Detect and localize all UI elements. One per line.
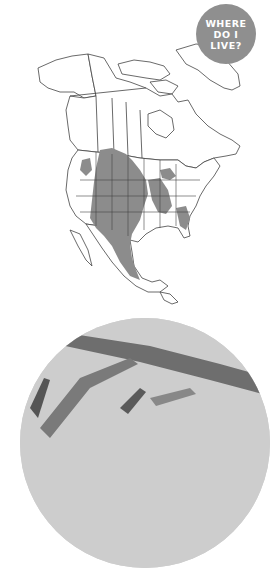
alaska-outline — [38, 54, 96, 98]
badge-line-3: LIVE? — [210, 40, 241, 51]
grass-photo — [20, 318, 270, 568]
arctic-islands-outline — [118, 60, 170, 80]
badge-line-2: DO I — [214, 29, 239, 40]
range-map — [0, 30, 270, 305]
where-do-i-live-badge: WHERE DO I LIVE? — [196, 4, 256, 64]
badge-line-1: WHERE — [205, 18, 246, 29]
